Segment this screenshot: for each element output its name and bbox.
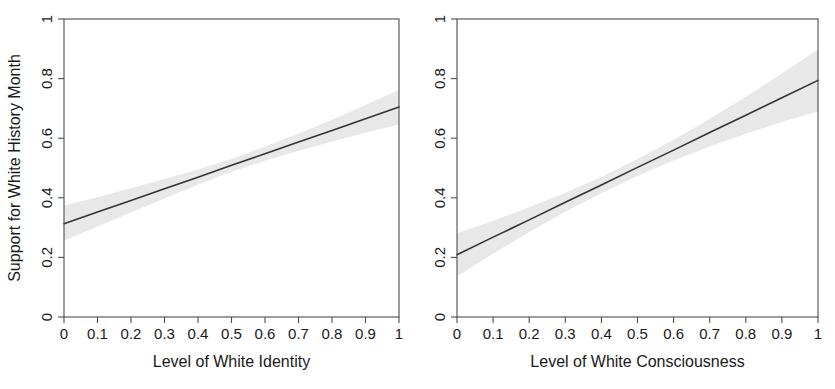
x-tick-label: 0.8	[735, 325, 756, 342]
y-tick-label: 1	[38, 15, 55, 23]
x-tick-label: 0.9	[771, 325, 792, 342]
y-tick-label: 0	[431, 313, 448, 321]
y-tick-label: 0.6	[431, 128, 448, 149]
x-tick-label: 0.3	[555, 325, 576, 342]
chart-panel-right: 00.10.20.30.40.50.60.70.80.9100.20.40.60…	[415, 0, 835, 389]
x-tick-label: 0.4	[188, 325, 209, 342]
confidence-band	[457, 49, 818, 276]
y-tick-label: 0.6	[38, 128, 55, 149]
plot-area-right: 00.10.20.30.40.50.60.70.80.9100.20.40.60…	[415, 0, 835, 389]
y-tick-label: 1	[431, 15, 448, 23]
y-tick-label: 0.2	[38, 247, 55, 268]
x-tick-label: 0.9	[355, 325, 376, 342]
x-tick-label: 0.4	[591, 325, 612, 342]
x-tick-label: 0.1	[87, 325, 108, 342]
y-tick-label: 0.8	[431, 68, 448, 89]
x-tick-label: 0	[60, 325, 68, 342]
x-tick-label: 0.6	[663, 325, 684, 342]
x-tick-label: 0.5	[221, 325, 242, 342]
y-tick-label: 0.4	[38, 187, 55, 208]
x-tick-label: 0.6	[255, 325, 276, 342]
x-tick-label: 0.7	[699, 325, 720, 342]
x-tick-label: 0.7	[288, 325, 309, 342]
y-tick-label: 0	[38, 313, 55, 321]
x-axis-title: Level of White Consciousness	[530, 353, 744, 370]
x-axis-title: Level of White Identity	[153, 353, 310, 370]
y-tick-label: 0.8	[38, 68, 55, 89]
chart-panel-left: 00.10.20.30.40.50.60.70.80.9100.20.40.60…	[0, 0, 420, 389]
x-tick-label: 0.1	[483, 325, 504, 342]
x-tick-label: 1	[814, 325, 822, 342]
figure-container: 00.10.20.30.40.50.60.70.80.9100.20.40.60…	[0, 0, 835, 389]
x-tick-label: 0.2	[519, 325, 540, 342]
y-tick-label: 0.4	[431, 187, 448, 208]
fit-line	[64, 107, 399, 224]
x-tick-label: 0.5	[627, 325, 648, 342]
plot-area-left: 00.10.20.30.40.50.60.70.80.9100.20.40.60…	[0, 0, 420, 389]
x-tick-label: 0.3	[154, 325, 175, 342]
x-tick-label: 1	[395, 325, 403, 342]
fit-line	[457, 80, 818, 254]
y-tick-label: 0.2	[431, 247, 448, 268]
x-tick-label: 0.2	[121, 325, 142, 342]
x-tick-label: 0.8	[322, 325, 343, 342]
x-tick-label: 0	[453, 325, 461, 342]
y-axis-title: Support for White History Month	[6, 54, 23, 282]
